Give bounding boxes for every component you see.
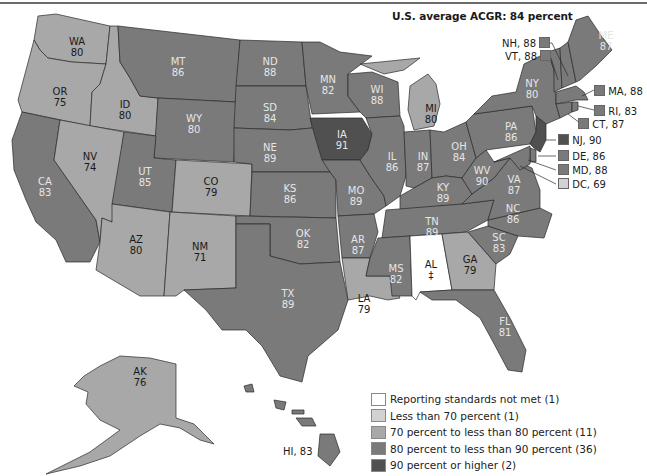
label-AZ-abbr: AZ: [129, 234, 143, 245]
label-AK-abbr: AK: [133, 366, 147, 377]
legend-label-70to80: 70 percent to less than 80 percent (11): [390, 426, 597, 438]
hi-island-molokai: [292, 410, 304, 414]
svg-text:VA87: VA87: [507, 174, 520, 196]
svg-text:IA91: IA91: [336, 129, 349, 151]
state-HI[interactable]: [318, 434, 340, 466]
svg-text:MO89: MO89: [348, 185, 365, 207]
svg-text:MT86: MT86: [171, 56, 187, 78]
legend: Reporting standards not met (1) Less tha…: [371, 391, 597, 474]
label-MS-value: 82: [390, 274, 403, 285]
svg-text:WI88: WI88: [371, 84, 384, 106]
svg-text:SD84: SD84: [263, 102, 277, 124]
label-SD-abbr: SD: [263, 102, 277, 113]
svg-text:CA83: CA83: [38, 176, 52, 198]
svg-text:TX89: TX89: [281, 288, 295, 310]
label-MO-value: 89: [350, 196, 363, 207]
callout-DE-swatch: [558, 150, 569, 161]
label-AR-abbr: AR: [351, 234, 365, 245]
label-WY-abbr: WY: [186, 113, 203, 124]
label-NM-value: 71: [194, 252, 207, 263]
label-MI-value: 80: [425, 114, 438, 125]
label-MT-abbr: MT: [171, 56, 187, 67]
state-RI[interactable]: [572, 102, 578, 112]
label-IN-value: 87: [417, 162, 430, 173]
svg-text:WV90: WV90: [474, 165, 491, 187]
svg-text:ME87: ME87: [599, 30, 614, 52]
svg-text:MN82: MN82: [320, 74, 336, 96]
label-CA-abbr: CA: [38, 176, 52, 187]
svg-text:WY80: WY80: [186, 113, 203, 135]
label-KY-value: 89: [437, 193, 450, 204]
label-WA-abbr: WA: [69, 36, 85, 47]
callout-RI-swatch: [594, 105, 605, 116]
hi-island-maui: [296, 418, 316, 426]
svg-text:MI80: MI80: [425, 103, 438, 125]
label-OK-abbr: OK: [296, 228, 311, 239]
state-DE[interactable]: [530, 148, 536, 162]
label-KS-abbr: KS: [284, 183, 297, 194]
svg-text:PA86: PA86: [505, 121, 518, 143]
svg-text:NV74: NV74: [83, 151, 97, 173]
legend-swatch-gte90: [371, 459, 386, 472]
svg-text:KS86: KS86: [284, 183, 297, 205]
label-IL-value: 86: [386, 162, 399, 173]
svg-text:ID80: ID80: [119, 99, 132, 121]
label-WV-value: 90: [476, 176, 489, 187]
state-AK[interactable]: [46, 356, 214, 474]
label-NY-value: 80: [526, 89, 539, 100]
callout-CT-swatch: [578, 118, 589, 129]
legend-item-lt70: Less than 70 percent (1): [371, 408, 597, 425]
svg-text:SC83: SC83: [492, 232, 505, 254]
label-ND-value: 88: [264, 67, 277, 78]
label-FL-value: 81: [499, 327, 512, 338]
label-CA-value: 83: [39, 187, 52, 198]
hi-island-oahu: [274, 400, 286, 410]
svg-text:FL81: FL81: [499, 316, 512, 338]
callout-NH-label: NH, 88: [502, 38, 536, 49]
label-MO-abbr: MO: [348, 185, 365, 196]
label-AL-value: ‡: [429, 270, 434, 281]
label-TN-value: 89: [426, 227, 439, 238]
callout-RI: RI, 83: [594, 105, 637, 117]
label-TX-value: 89: [282, 299, 295, 310]
label-MI-abbr: MI: [425, 103, 437, 114]
callout-VT-swatch: [540, 50, 551, 61]
label-OR-value: 75: [54, 97, 67, 108]
legend-item-gte90: 90 percent or higher (2): [371, 457, 597, 474]
svg-text:CO79: CO79: [204, 176, 219, 198]
callout-DE: DE, 86: [558, 150, 605, 162]
callout-HI-label: HI, 83: [283, 446, 313, 457]
label-LA-abbr: LA: [358, 293, 371, 304]
callout-NH: NH, 88: [502, 37, 550, 49]
label-WY-value: 80: [188, 124, 201, 135]
callout-MD-swatch: [558, 164, 569, 175]
label-PA-abbr: PA: [505, 121, 517, 132]
svg-text:ND88: ND88: [262, 56, 277, 78]
svg-text:AK76: AK76: [133, 366, 147, 388]
label-VA-value: 87: [508, 185, 521, 196]
svg-text:IN87: IN87: [417, 151, 430, 173]
svg-text:NM71: NM71: [192, 241, 208, 263]
label-AK-value: 76: [134, 377, 147, 388]
callout-MD-label: MD, 88: [572, 165, 607, 176]
label-PA-value: 86: [505, 132, 518, 143]
label-WI-abbr: WI: [371, 84, 384, 95]
label-MT-value: 86: [172, 67, 185, 78]
label-NY-abbr: NY: [525, 78, 539, 89]
callout-VT: VT, 88: [505, 50, 551, 62]
label-GA-abbr: GA: [463, 254, 478, 265]
callout-DC-swatch: [558, 178, 569, 189]
svg-text:NC86: NC86: [506, 203, 520, 225]
callout-DC-label: DC, 69: [572, 179, 606, 190]
label-IA-abbr: IA: [337, 129, 347, 140]
callout-NJ: NJ, 90: [558, 134, 602, 146]
label-ME-abbr: ME: [599, 30, 614, 41]
svg-text:AZ80: AZ80: [129, 234, 143, 256]
svg-text:WA80: WA80: [69, 36, 85, 58]
label-ID-value: 80: [119, 110, 132, 121]
callout-DE-label: DE, 86: [572, 151, 605, 162]
label-MN-value: 82: [322, 85, 335, 96]
label-UT-abbr: UT: [138, 166, 152, 177]
label-IN-abbr: IN: [418, 151, 428, 162]
label-SD-value: 84: [264, 113, 277, 124]
